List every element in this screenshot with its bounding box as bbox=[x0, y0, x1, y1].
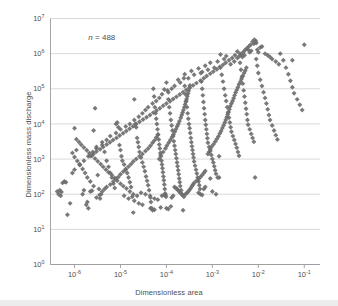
data-point bbox=[190, 144, 195, 149]
data-point bbox=[246, 122, 251, 127]
data-point bbox=[247, 127, 252, 132]
data-point bbox=[85, 175, 90, 180]
data-point bbox=[203, 117, 208, 122]
data-point bbox=[202, 112, 207, 117]
data-point bbox=[151, 86, 156, 91]
data-point bbox=[242, 94, 247, 99]
data-point bbox=[129, 185, 134, 190]
data-point bbox=[268, 117, 273, 122]
tick-label: 103 bbox=[33, 154, 44, 164]
data-point bbox=[173, 148, 178, 153]
data-point bbox=[65, 212, 70, 217]
data-point bbox=[141, 164, 146, 169]
tick-label: 10-3 bbox=[206, 269, 219, 279]
data-point bbox=[281, 58, 286, 63]
data-point bbox=[244, 106, 249, 111]
data-point bbox=[190, 148, 195, 153]
data-point bbox=[224, 99, 229, 104]
data-point bbox=[200, 86, 205, 91]
data-point bbox=[68, 201, 73, 206]
data-point bbox=[261, 90, 266, 95]
data-point bbox=[88, 179, 93, 184]
data-point bbox=[142, 169, 147, 174]
data-point bbox=[196, 66, 201, 71]
data-point bbox=[77, 163, 82, 168]
data-point bbox=[80, 167, 85, 172]
data-point bbox=[172, 143, 177, 148]
data-point bbox=[108, 134, 113, 139]
data-point bbox=[237, 153, 242, 158]
tick-label: 10-5 bbox=[114, 269, 127, 279]
data-point bbox=[229, 129, 234, 134]
tick-label: 10-2 bbox=[252, 269, 265, 279]
data-point bbox=[72, 154, 77, 159]
data-point bbox=[160, 166, 165, 171]
data-point bbox=[131, 210, 136, 215]
data-point bbox=[147, 188, 152, 193]
tick-label: 10-1 bbox=[298, 269, 311, 279]
data-point bbox=[253, 175, 258, 180]
data-point bbox=[93, 106, 98, 111]
data-point bbox=[212, 164, 217, 169]
data-point bbox=[188, 135, 193, 140]
data-point bbox=[243, 100, 248, 105]
y-axis-tick-labels: 107106105104103102101100 bbox=[33, 13, 44, 269]
data-point bbox=[272, 128, 277, 133]
data-point bbox=[155, 127, 160, 132]
data-point bbox=[157, 142, 162, 147]
data-point bbox=[144, 174, 149, 179]
data-point bbox=[284, 65, 289, 70]
data-point bbox=[132, 97, 137, 102]
data-point bbox=[219, 72, 224, 77]
data-point bbox=[187, 121, 192, 126]
data-point bbox=[176, 168, 181, 173]
data-point bbox=[80, 192, 85, 197]
scatter-plot: 107106105104103102101100 10-610-510-410-… bbox=[0, 0, 338, 306]
data-point bbox=[215, 59, 220, 64]
data-points bbox=[55, 37, 307, 217]
data-point bbox=[286, 72, 291, 77]
tick-label: 104 bbox=[33, 119, 44, 129]
x-axis-ticks bbox=[75, 265, 305, 269]
data-point bbox=[146, 183, 151, 188]
data-point bbox=[265, 107, 270, 112]
data-point bbox=[204, 127, 209, 132]
data-point bbox=[127, 180, 132, 185]
data-point bbox=[250, 135, 255, 140]
data-point bbox=[192, 159, 197, 164]
data-point bbox=[214, 192, 219, 197]
annotation-text: n = 488 bbox=[88, 33, 115, 42]
data-point bbox=[119, 154, 124, 159]
data-point bbox=[230, 134, 235, 139]
data-point bbox=[251, 139, 256, 144]
data-point bbox=[185, 111, 190, 116]
data-point bbox=[74, 148, 79, 153]
data-point bbox=[140, 160, 145, 165]
data-point bbox=[194, 167, 199, 172]
data-point bbox=[260, 84, 265, 89]
data-point bbox=[145, 178, 150, 183]
data-point bbox=[256, 71, 261, 76]
data-point bbox=[238, 60, 243, 65]
data-point bbox=[152, 94, 157, 99]
data-point bbox=[161, 178, 166, 183]
tick-label: 102 bbox=[33, 189, 44, 199]
data-point bbox=[222, 86, 227, 91]
data-point bbox=[162, 187, 167, 192]
data-point bbox=[278, 51, 283, 56]
data-point bbox=[189, 140, 194, 145]
data-point bbox=[266, 113, 271, 118]
data-point bbox=[177, 180, 182, 185]
tick-label: 107 bbox=[33, 13, 44, 23]
data-point bbox=[168, 117, 173, 122]
data-point bbox=[200, 93, 205, 98]
figure-container: 107106105104103102101100 10-610-510-410-… bbox=[0, 0, 338, 306]
data-point bbox=[255, 63, 260, 68]
data-point bbox=[204, 131, 209, 136]
data-point bbox=[264, 101, 269, 106]
data-point bbox=[239, 67, 244, 72]
data-point bbox=[72, 126, 77, 131]
data-point bbox=[175, 164, 180, 169]
data-point bbox=[292, 91, 297, 96]
data-point bbox=[117, 143, 122, 148]
